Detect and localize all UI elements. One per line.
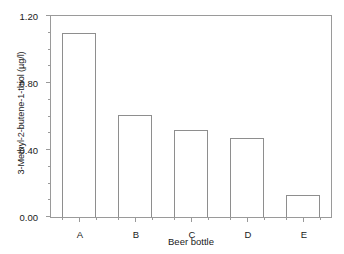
y-axis-tick: 1.20 bbox=[46, 15, 51, 16]
bar-a bbox=[62, 33, 97, 217]
x-axis-minor-tick bbox=[230, 217, 231, 220]
x-axis-minor-tick bbox=[118, 217, 119, 220]
x-axis-title: Beer bottle bbox=[50, 236, 332, 247]
bar-chart-figure: 3-Methyl-2-butene-1-thiol (µg/l) 0.000.4… bbox=[0, 0, 344, 254]
bar-c bbox=[174, 130, 209, 217]
y-axis-tick-label: 0.80 bbox=[20, 78, 39, 89]
y-axis-tick: 0.80 bbox=[46, 82, 51, 83]
y-axis-tick: 0.00 bbox=[46, 216, 51, 217]
x-axis-tick: D bbox=[247, 217, 248, 222]
y-axis-minor-tick bbox=[48, 32, 51, 33]
x-axis-minor-tick bbox=[208, 217, 209, 220]
y-axis-minor-tick bbox=[48, 116, 51, 117]
y-axis-minor-tick bbox=[48, 166, 51, 167]
bar-d bbox=[230, 138, 265, 217]
bar-e bbox=[286, 195, 321, 217]
bar-b bbox=[118, 115, 153, 217]
x-axis-minor-tick bbox=[286, 217, 287, 220]
y-axis-tick-label: 0.00 bbox=[20, 212, 39, 223]
plot-area: 0.000.400.801.20ABCDE bbox=[50, 15, 332, 218]
x-axis-minor-tick bbox=[320, 217, 321, 220]
bar-series bbox=[51, 16, 331, 217]
x-axis-minor-tick bbox=[152, 217, 153, 220]
x-axis-tick: C bbox=[191, 217, 192, 222]
y-axis-minor-tick bbox=[48, 183, 51, 184]
y-axis-minor-tick bbox=[48, 99, 51, 100]
y-axis-minor-tick bbox=[48, 199, 51, 200]
x-axis-minor-tick bbox=[62, 217, 63, 220]
x-axis-minor-tick bbox=[96, 217, 97, 220]
x-axis-tick: E bbox=[303, 217, 304, 222]
x-axis-minor-tick bbox=[174, 217, 175, 220]
y-axis-minor-tick bbox=[48, 65, 51, 66]
y-axis-minor-tick bbox=[48, 132, 51, 133]
y-axis-tick: 0.40 bbox=[46, 149, 51, 150]
y-axis-minor-tick bbox=[48, 49, 51, 50]
x-axis-minor-tick bbox=[264, 217, 265, 220]
y-axis-title: 3-Methyl-2-butene-1-thiol (µg/l) bbox=[14, 8, 28, 218]
x-axis-tick: B bbox=[135, 217, 136, 222]
x-axis-tick: A bbox=[79, 217, 80, 222]
y-axis-tick-label: 1.20 bbox=[20, 11, 39, 22]
y-axis-tick-label: 0.40 bbox=[20, 145, 39, 156]
